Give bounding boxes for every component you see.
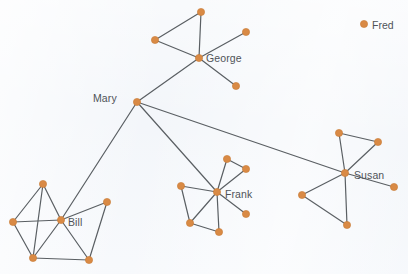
graph-node[interactable]: [298, 191, 305, 198]
graph-node[interactable]: [39, 180, 46, 187]
graph-node[interactable]: [9, 218, 16, 225]
graph-node[interactable]: [223, 155, 230, 162]
network-graph-svg: [0, 0, 408, 274]
graph-node-mary[interactable]: [133, 98, 140, 105]
graph-edge: [155, 12, 201, 40]
graph-node[interactable]: [177, 182, 184, 189]
graph-edge: [217, 192, 219, 232]
graph-node[interactable]: [374, 138, 381, 145]
graph-edge: [345, 173, 347, 225]
graph-edge: [13, 220, 61, 222]
graph-edge: [199, 12, 201, 58]
graph-node-frank[interactable]: [213, 188, 220, 195]
graph-node[interactable]: [215, 228, 222, 235]
graph-edge: [181, 186, 217, 192]
graph-node[interactable]: [151, 36, 158, 43]
graph-node[interactable]: [242, 210, 249, 217]
graph-edge: [181, 186, 190, 223]
graph-edge: [13, 222, 33, 258]
graph-edge: [155, 40, 199, 58]
node-label-fred: Fred: [372, 20, 394, 31]
node-label-frank: Frank: [225, 189, 252, 200]
graph-edge: [61, 102, 137, 220]
graph-node[interactable]: [186, 219, 193, 226]
graph-node[interactable]: [390, 183, 397, 190]
graph-node[interactable]: [197, 8, 204, 15]
graph-edge: [302, 173, 345, 195]
graph-edge: [43, 184, 61, 220]
graph-edge: [302, 195, 347, 225]
graph-edge: [190, 192, 217, 223]
graph-node-susan[interactable]: [341, 169, 348, 176]
graph-node[interactable]: [103, 198, 110, 205]
graph-edge: [137, 58, 199, 102]
graph-edge: [33, 258, 89, 260]
graph-node[interactable]: [29, 254, 36, 261]
network-diagram-canvas: MaryGeorgeBillFrankSusanFred: [0, 0, 408, 274]
graph-node[interactable]: [232, 82, 239, 89]
graph-edge: [339, 133, 378, 142]
graph-node-fred[interactable]: [360, 20, 367, 27]
graph-node[interactable]: [343, 221, 350, 228]
graph-node[interactable]: [85, 256, 92, 263]
node-label-susan: Susan: [354, 170, 384, 181]
node-label-mary: Mary: [93, 93, 117, 104]
node-label-bill: Bill: [68, 217, 82, 228]
graph-node-george[interactable]: [195, 54, 202, 61]
node-label-george: George: [206, 53, 242, 64]
graph-node[interactable]: [242, 28, 249, 35]
graph-edge: [339, 133, 345, 173]
graph-node[interactable]: [335, 129, 342, 136]
graph-edge: [89, 202, 107, 260]
graph-edge: [190, 223, 219, 232]
graph-node[interactable]: [242, 165, 249, 172]
graph-node-bill[interactable]: [57, 216, 64, 223]
